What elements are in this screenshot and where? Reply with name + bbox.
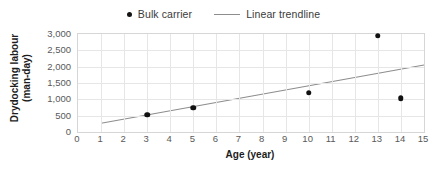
y-axis-tick-label: 3,000 (47, 28, 71, 39)
y-axis-tick-label: 2,500 (47, 44, 71, 55)
gridline-vertical (378, 34, 379, 132)
x-axis-tick-label: 5 (190, 133, 195, 144)
gridline-vertical (216, 34, 217, 132)
y-axis-tick-label: 500 (55, 109, 71, 120)
x-axis-tick-label: 1 (97, 133, 102, 144)
data-point (191, 105, 197, 111)
gridline-vertical (286, 34, 287, 132)
line-marker-icon (214, 14, 240, 15)
y-axis-tick-label: 2,000 (47, 60, 71, 71)
plot-area (77, 33, 425, 133)
y-axis-title-text: Drydocking labour (man-day) (9, 34, 33, 122)
chart-legend: Bulk carrier Linear trendline (0, 4, 447, 24)
dot-marker-icon (127, 12, 132, 17)
x-axis-tick-label: 3 (144, 133, 149, 144)
x-axis-tick-label: 11 (326, 133, 336, 144)
x-axis-tick-label: 12 (349, 133, 360, 144)
x-axis-tick-label: 14 (395, 133, 406, 144)
gridline-vertical (170, 34, 171, 132)
gridline-vertical (332, 34, 333, 132)
x-axis-tick-label: 10 (302, 133, 313, 144)
x-axis-tick-label: 9 (282, 133, 287, 144)
data-point (398, 96, 404, 102)
x-axis-tick-label: 6 (213, 133, 218, 144)
x-axis-tick-label: 7 (236, 133, 241, 144)
x-axis-tick-label: 8 (259, 133, 264, 144)
data-point (144, 112, 150, 118)
gridline-horizontal (78, 67, 424, 68)
x-axis-tick-label: 4 (167, 133, 172, 144)
drydocking-labour-scatter-chart: Bulk carrier Linear trendline Drydocking… (0, 0, 447, 172)
x-axis-tick-label: 2 (120, 133, 125, 144)
legend-label-linear-trendline: Linear trendline (246, 8, 320, 20)
x-axis-tick-labels: 0123456789101112131415 (77, 133, 423, 147)
gridline-vertical (101, 34, 102, 132)
gridline-horizontal (78, 50, 424, 51)
x-axis-tick-label: 13 (372, 133, 383, 144)
legend-item-bulk-carrier: Bulk carrier (127, 8, 192, 20)
y-axis-tick-label: 1,000 (47, 93, 71, 104)
data-point (306, 90, 312, 96)
legend-label-bulk-carrier: Bulk carrier (138, 8, 192, 20)
gridline-vertical (355, 34, 356, 132)
gridline-vertical (263, 34, 264, 132)
y-axis-tick-label: 0 (66, 126, 71, 137)
plot-inner (78, 34, 424, 132)
gridline-vertical (401, 34, 402, 132)
gridline-vertical (309, 34, 310, 132)
gridline-vertical (239, 34, 240, 132)
gridline-horizontal (78, 99, 424, 100)
x-axis-tick-label: 0 (74, 133, 79, 144)
data-point (375, 33, 381, 39)
x-axis-tick-label: 15 (418, 133, 429, 144)
x-axis-title: Age (year) (77, 149, 423, 160)
gridline-horizontal (78, 116, 424, 117)
gridline-vertical (124, 34, 125, 132)
gridline-vertical (193, 34, 194, 132)
gridline-horizontal (78, 83, 424, 84)
y-axis-tick-label: 1,500 (47, 77, 71, 88)
y-axis-tick-labels: 05001,0001,5002,0002,5003,000 (38, 28, 74, 132)
legend-item-linear-trendline: Linear trendline (214, 8, 320, 20)
